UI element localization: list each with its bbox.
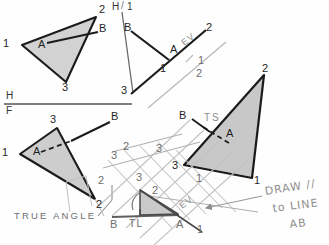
aux2-point-a: A	[226, 128, 233, 139]
front-view-point-a: A	[33, 146, 40, 157]
true-length-label: TL	[129, 219, 144, 229]
fold-label-12-1: 1	[198, 55, 204, 66]
aux-construction-vertex-3b: 3	[156, 143, 162, 154]
aux2-vertex-3: 3	[172, 160, 178, 171]
fold-label-23-3: 3	[111, 150, 117, 161]
tl-point-b: B	[110, 219, 117, 230]
tl-point-1: 1	[197, 224, 203, 235]
top-view-group	[22, 17, 98, 82]
fold-label-12-2: 2	[196, 68, 202, 79]
handwriting-leader	[206, 196, 262, 208]
top-view-vertex-2: 2	[99, 4, 105, 15]
top-view-point-a: A	[38, 39, 45, 50]
front-view-point-b: B	[111, 111, 118, 122]
aux2-vertex-2: 2	[262, 63, 268, 74]
aux1-line-ba	[131, 31, 169, 60]
top-view-point-b: B	[99, 23, 106, 34]
fold-label-h: H	[6, 91, 14, 101]
fold-slash-h1: /	[121, 1, 124, 11]
tl-point-a: A	[176, 219, 183, 230]
fold-line-12-tick	[186, 55, 193, 62]
aux-construction-vertex-2c: 2	[98, 175, 104, 186]
aux-construction-vertex-2b: 2	[152, 185, 158, 196]
front-view-triangle	[20, 128, 95, 199]
aux1-vertex-1: 1	[160, 63, 166, 74]
fold-label-f: F	[6, 106, 13, 116]
top-view-vertex-3: 3	[62, 82, 68, 93]
aux1-vertex-2: 2	[206, 22, 212, 33]
front-view-line-ab-solid	[71, 122, 110, 141]
aux2-point-b: B	[179, 110, 186, 121]
top-view-triangle	[22, 17, 96, 82]
front-view-group	[20, 122, 110, 199]
fold-label-h1-h: H	[112, 2, 120, 12]
drawing-sheet: 1 2 3 A B H F 1 3 2 A B TRUE ANGLE H 1 /…	[0, 0, 329, 245]
aux1-point-b: B	[124, 22, 131, 33]
true-size-label: TS	[204, 113, 221, 123]
handwritten-note-line3: AB	[289, 217, 307, 230]
front-view-vertex-3: 3	[50, 114, 56, 125]
front-view-vertex-2: 2	[96, 199, 102, 210]
aux1-vertex-3: 3	[121, 85, 127, 96]
aux2-vertex-1: 1	[254, 175, 260, 186]
fold-label-h1-1: 1	[127, 2, 133, 12]
aux-construction-vertex-3c: 3	[136, 172, 142, 183]
aux-construction-vertex-1b: 1	[196, 173, 202, 184]
front-view-vertex-1: 1	[2, 147, 8, 158]
fold-label-23-2: 2	[123, 141, 129, 152]
aux1-point-a: A	[170, 44, 177, 55]
top-view-vertex-1: 1	[3, 38, 9, 49]
true-angle-note: TRUE ANGLE	[14, 211, 96, 221]
